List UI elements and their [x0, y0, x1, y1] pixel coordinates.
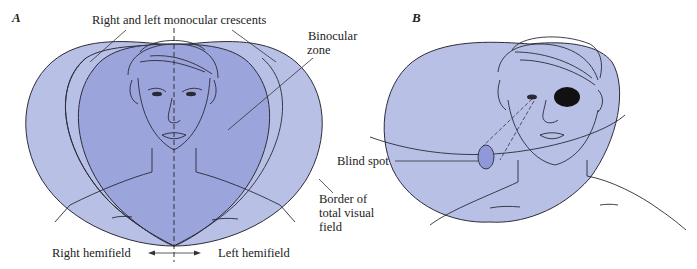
border-label-line1: Border of	[319, 192, 368, 206]
visual-field-figure: A Right and left monocular crescents Bin…	[0, 0, 697, 269]
monocular-visual-field	[384, 42, 619, 222]
eye-patch-icon	[554, 87, 580, 107]
border-label-line2: total visual	[319, 206, 375, 220]
binocular-label-line1: Binocular	[308, 29, 358, 43]
left-hemifield-label: Left hemifield	[218, 246, 291, 260]
blind-spot	[478, 145, 494, 169]
border-label-line3: field	[319, 220, 343, 234]
panel-b-label: B	[411, 10, 421, 25]
blind-spot-label: Blind spot	[337, 154, 389, 168]
monocular-crescents-label: Right and left monocular crescents	[92, 13, 266, 27]
right-arrow-icon	[194, 251, 201, 256]
left-arrow-icon	[148, 251, 155, 256]
right-hemifield-label: Right hemifield	[52, 246, 132, 260]
binocular-label-line2: zone	[307, 43, 331, 57]
panel-a-label: A	[11, 10, 21, 25]
panel-a: A Right and left monocular crescents Bin…	[11, 10, 375, 262]
panel-b: B Blind spot	[337, 10, 686, 230]
